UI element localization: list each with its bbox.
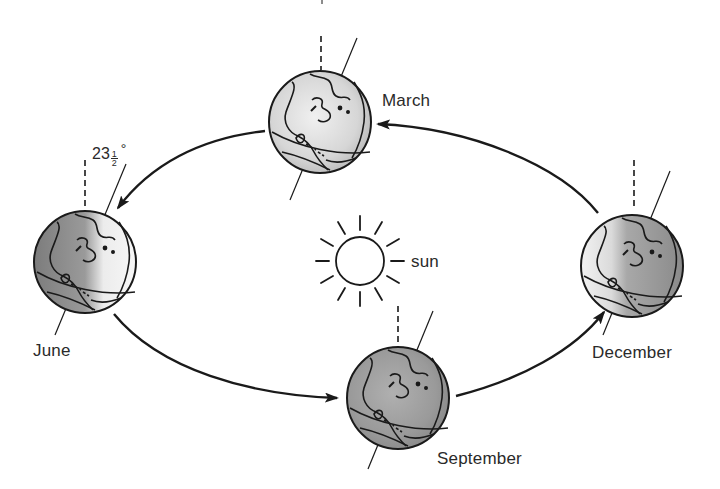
axial-tilt-label: 2312°: [92, 141, 126, 167]
arrow-june-to-september: [114, 314, 337, 398]
arrow-september-to-december: [456, 312, 604, 396]
arrow-march-to-june: [118, 131, 265, 208]
tilt-whole: 23: [92, 145, 110, 162]
tilt-fraction: 12: [111, 150, 118, 167]
label-december: December: [592, 343, 672, 363]
degree-symbol: °: [121, 141, 127, 157]
globe-march: [269, 0, 371, 200]
sun-icon: [316, 216, 404, 306]
orbit-diagram: March June September December sun 2312°: [0, 0, 720, 489]
label-september: September: [437, 449, 522, 469]
label-march: March: [382, 91, 430, 111]
globe-june: [34, 160, 136, 335]
globe-september: [347, 306, 449, 469]
label-june: June: [33, 341, 71, 361]
label-sun: sun: [411, 252, 439, 272]
diagram-canvas: [0, 0, 720, 489]
arrow-december-to-march: [378, 124, 598, 213]
globe-december: [581, 160, 683, 335]
